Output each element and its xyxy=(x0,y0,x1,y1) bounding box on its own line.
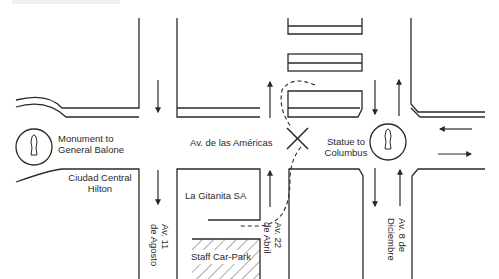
av-8-label: Av. 8 de Diciembre xyxy=(386,218,408,261)
building-row-2 xyxy=(288,54,362,71)
hotel-label-line2: Hilton xyxy=(64,183,136,194)
av-8-line2: Diciembre xyxy=(386,218,397,261)
av-11-line2: de Agosto xyxy=(149,224,160,266)
monument-label-line2: General Balone xyxy=(58,144,124,155)
block-bottom-statue xyxy=(289,169,363,279)
shop-label: La Gitanita SA xyxy=(185,190,246,201)
statue-label-line2: Columbus xyxy=(318,147,374,158)
block-top-right xyxy=(411,18,485,117)
monument-label-line1: Monument to xyxy=(58,133,124,144)
statue-in-circle-icon xyxy=(370,124,406,160)
block-top-center xyxy=(177,18,260,117)
main-avenue-label: Av. de las Américas xyxy=(190,137,273,148)
av-22-line1: Av. 22 xyxy=(273,222,284,254)
hotel-label-line1: Ciudad Central xyxy=(64,172,136,183)
statue-in-circle-icon xyxy=(16,129,52,165)
av-11-line1: Av. 11 xyxy=(160,224,171,266)
hotel-label: Ciudad Central Hilton xyxy=(64,172,136,194)
statue-label: Statue to Columbus xyxy=(318,136,374,158)
av-11-label: Av. 11 de Agosto xyxy=(149,224,171,266)
building-row-1 xyxy=(288,18,362,34)
building-row-3 xyxy=(288,91,362,117)
block-top-left xyxy=(16,18,139,117)
dashed-route-line xyxy=(240,81,315,226)
block-bottom-right xyxy=(412,169,485,279)
statue-label-line1: Statue to xyxy=(318,136,374,147)
av-22-line2: de Abril xyxy=(262,222,273,254)
monument-label: Monument to General Balone xyxy=(58,133,124,155)
car-park-label: Staff Car-Park xyxy=(191,251,251,262)
av-22-label: Av. 22 de Abril xyxy=(262,222,284,254)
x-cross-icon xyxy=(287,128,308,149)
av-8-line1: Av. 8 de xyxy=(397,218,408,261)
